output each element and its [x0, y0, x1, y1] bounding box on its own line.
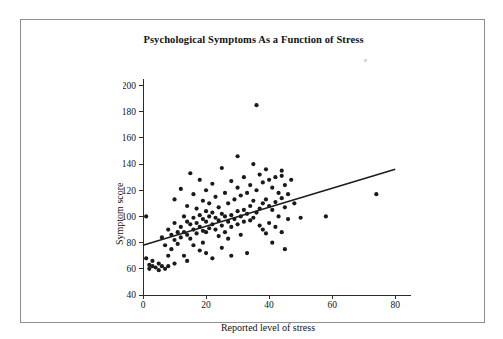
data-point	[191, 243, 195, 247]
data-point	[229, 254, 233, 258]
data-point	[283, 205, 287, 209]
data-point	[235, 186, 239, 190]
chart-title: Psychological Symptoms As a Function of …	[21, 34, 486, 45]
data-point	[286, 192, 290, 196]
data-point	[258, 224, 262, 228]
data-point	[182, 254, 186, 258]
data-point	[201, 199, 205, 203]
data-point	[242, 220, 246, 224]
data-point	[163, 243, 167, 247]
data-point	[267, 221, 271, 225]
data-point	[195, 221, 199, 225]
scan-artifact	[364, 59, 367, 62]
data-point	[191, 192, 195, 196]
data-point	[235, 209, 239, 213]
scatter-plot-svg: 406080100120140160180200020406080	[123, 77, 413, 309]
data-point	[299, 216, 303, 220]
y-tick-label: 40	[127, 290, 137, 300]
data-point	[251, 199, 255, 203]
axes-group	[143, 79, 411, 295]
data-point	[210, 256, 214, 260]
data-point	[292, 201, 296, 205]
data-point	[235, 222, 239, 226]
data-point	[204, 220, 208, 224]
x-axis-title: Reported level of stress	[123, 322, 413, 333]
data-point	[273, 225, 277, 229]
data-point	[172, 197, 176, 201]
data-point	[176, 242, 180, 246]
data-point	[188, 237, 192, 241]
data-point	[217, 205, 221, 209]
data-point	[229, 179, 233, 183]
y-tick-label: 200	[123, 81, 136, 91]
data-point	[213, 227, 217, 231]
data-point	[185, 259, 189, 263]
y-axis-title: Symptom score	[114, 183, 125, 246]
data-point	[220, 224, 224, 228]
tick-labels-group: 406080100120140160180200020406080	[123, 81, 400, 309]
data-point	[169, 247, 173, 251]
data-point	[283, 183, 287, 187]
data-point	[207, 201, 211, 205]
data-point	[172, 221, 176, 225]
data-point	[210, 182, 214, 186]
data-point	[245, 251, 249, 255]
data-point	[185, 204, 189, 208]
data-point	[204, 230, 208, 234]
data-point	[261, 201, 265, 205]
data-point	[204, 209, 208, 213]
data-point	[157, 268, 161, 272]
data-point	[220, 166, 224, 170]
x-tick-label: 0	[141, 300, 146, 309]
data-point	[198, 178, 202, 182]
data-point	[144, 214, 148, 218]
y-tick-label: 80	[127, 238, 137, 248]
data-point	[280, 196, 284, 200]
data-point	[273, 200, 277, 204]
data-point	[267, 178, 271, 182]
data-point	[242, 175, 246, 179]
data-point	[198, 248, 202, 252]
data-point	[210, 210, 214, 214]
data-point	[254, 188, 258, 192]
data-point	[264, 231, 268, 235]
data-point	[201, 241, 205, 245]
data-point	[248, 183, 252, 187]
data-point	[270, 241, 274, 245]
data-point	[220, 246, 224, 250]
y-tick-label: 160	[123, 133, 136, 143]
x-tick-label: 80	[390, 300, 400, 309]
data-point	[179, 235, 183, 239]
y-tick-label: 180	[123, 107, 136, 117]
data-point	[264, 197, 268, 201]
data-point	[204, 188, 208, 192]
y-tick-label: 140	[123, 159, 136, 169]
data-point	[223, 230, 227, 234]
data-point	[254, 103, 258, 107]
data-point	[270, 208, 274, 212]
data-point	[280, 174, 284, 178]
data-point	[198, 213, 202, 217]
data-point	[213, 195, 217, 199]
data-point	[217, 234, 221, 238]
data-point	[166, 227, 170, 231]
x-tick-label: 20	[201, 300, 211, 309]
data-point	[273, 175, 277, 179]
data-point	[229, 213, 233, 217]
data-point	[226, 237, 230, 241]
data-point	[204, 251, 208, 255]
data-point	[235, 154, 239, 158]
data-point	[283, 247, 287, 251]
data-point	[251, 162, 255, 166]
data-point	[374, 192, 378, 196]
data-point	[188, 222, 192, 226]
data-point	[223, 214, 227, 218]
data-point	[261, 227, 265, 231]
data-point	[232, 197, 236, 201]
data-point	[195, 231, 199, 235]
data-point	[245, 191, 249, 195]
data-point	[248, 204, 252, 208]
data-point	[251, 216, 255, 220]
data-point	[239, 193, 243, 197]
data-point	[172, 238, 176, 242]
